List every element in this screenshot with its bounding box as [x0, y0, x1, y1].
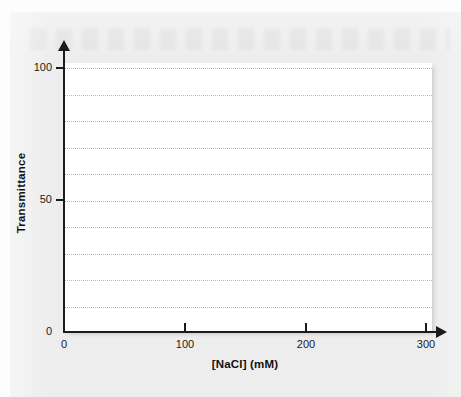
x-axis-title: [NaCl] (mM)	[145, 358, 345, 370]
chart-figure: 100 50 0 0 100 200 300 Transmittance [Na…	[0, 0, 461, 397]
y-tick-label-0: 0	[22, 325, 52, 337]
x-axis-line	[63, 331, 438, 333]
y-axis-arrow-icon	[58, 40, 70, 51]
x-tick-label-100: 100	[165, 338, 205, 350]
gridline-80	[64, 121, 432, 122]
y-tick-50	[56, 199, 65, 201]
gridline-70	[64, 148, 432, 149]
x-tick-0	[63, 323, 65, 332]
y-tick-label-100: 100	[22, 61, 52, 73]
gridline-100	[64, 68, 432, 69]
x-tick-300	[425, 323, 427, 332]
x-tick-200	[305, 323, 307, 332]
y-tick-100	[56, 67, 65, 69]
y-axis-title: Transmittance	[15, 133, 27, 253]
y-axis-line	[63, 48, 65, 333]
plot-area	[64, 63, 432, 332]
x-tick-label-300: 300	[406, 338, 446, 350]
gridline-20	[64, 280, 432, 281]
x-axis-arrow-icon	[436, 326, 447, 338]
gridline-10	[64, 307, 432, 308]
chart-screenshot: 100 50 0 0 100 200 300 Transmittance [Na…	[0, 0, 461, 397]
x-tick-label-200: 200	[286, 338, 326, 350]
gridline-60	[64, 174, 432, 175]
gridline-40	[64, 227, 432, 228]
gridline-30	[64, 254, 432, 255]
gridline-90	[64, 95, 432, 96]
x-tick-label-0: 0	[44, 338, 84, 350]
x-tick-100	[184, 323, 186, 332]
gridline-50	[64, 201, 432, 202]
